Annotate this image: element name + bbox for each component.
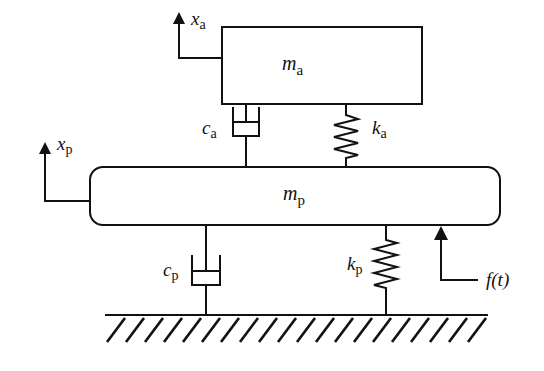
primary-damper: [192, 225, 220, 315]
absorber-damper: [233, 104, 259, 167]
primary-damper-label: cp: [163, 259, 178, 283]
absorber-spring: [334, 104, 358, 167]
absorber-spring-label: ka: [372, 117, 387, 141]
mechanical-diagram: xa ma ca ka xp mp cp kp f(t): [0, 0, 544, 371]
primary-spring-label: kp: [347, 253, 362, 277]
absorber-mass-box: [222, 27, 422, 104]
absorber-damper-label: ca: [202, 117, 217, 141]
primary-spring: [374, 225, 397, 315]
ground: [105, 315, 488, 342]
absorber-displacement-label: xa: [190, 8, 206, 32]
primary-displacement-label: xp: [56, 133, 72, 157]
force-label: f(t): [486, 269, 509, 291]
force-arrow: [434, 226, 478, 280]
